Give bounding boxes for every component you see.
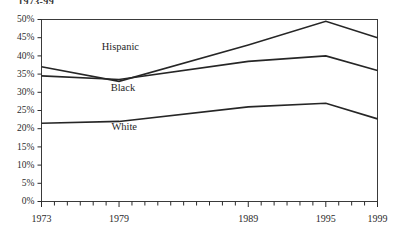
series-label-hispanic: Hispanic bbox=[102, 41, 140, 52]
y-tick-label: 50% bbox=[17, 14, 35, 24]
x-axis-tick-labels: 19731979198919951999 bbox=[32, 213, 388, 224]
y-axis-ticks bbox=[38, 20, 42, 202]
y-axis-tick-labels: 0%5%10%15%20%25%30%35%40%45%50% bbox=[17, 14, 35, 206]
x-tick-label: 1973 bbox=[32, 213, 52, 224]
series-label-white: White bbox=[111, 121, 137, 132]
x-tick-label: 1999 bbox=[368, 213, 388, 224]
y-tick-label: 0% bbox=[22, 196, 35, 206]
x-axis-ticks bbox=[42, 202, 378, 208]
series-label-black: Black bbox=[111, 82, 136, 93]
y-tick-label: 40% bbox=[17, 51, 35, 61]
line-chart: 0%5%10%15%20%25%30%35%40%45%50% 19731979… bbox=[0, 0, 396, 234]
y-tick-label: 5% bbox=[22, 178, 35, 188]
series-line-hispanic bbox=[42, 21, 378, 81]
y-tick-label: 20% bbox=[17, 123, 35, 133]
chart-container: 1973-99 0%5%10%15%20%25%30%35%40%45%50% … bbox=[0, 0, 396, 234]
y-tick-label: 25% bbox=[17, 105, 35, 115]
x-tick-label: 1989 bbox=[238, 213, 258, 224]
series-line-white bbox=[42, 103, 378, 123]
series-lines-group bbox=[42, 21, 378, 123]
y-tick-label: 30% bbox=[17, 87, 35, 97]
y-tick-label: 10% bbox=[17, 160, 35, 170]
series-inline-labels: HispanicBlackWhite bbox=[102, 41, 140, 132]
y-tick-label: 45% bbox=[17, 32, 35, 42]
x-tick-label: 1979 bbox=[109, 213, 129, 224]
y-tick-label: 15% bbox=[17, 142, 35, 152]
y-tick-label: 35% bbox=[17, 69, 35, 79]
x-tick-label: 1995 bbox=[316, 213, 336, 224]
top-caption-fragment: 1973-99 bbox=[18, 0, 54, 4]
